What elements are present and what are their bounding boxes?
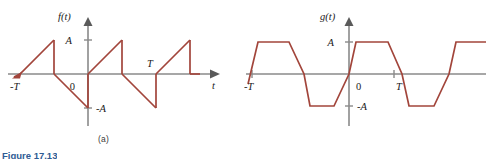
y-axis-label-b: g(t) xyxy=(320,11,336,23)
waveform-start-arrow-a xyxy=(12,72,22,79)
figure-caption: Figure 17.13 xyxy=(2,150,57,159)
y-axis-arrow-b xyxy=(345,17,354,26)
ytick-label-negA-a: -A xyxy=(96,103,106,114)
panel-sublabel-a: (a) xyxy=(98,134,109,144)
ytick-label-A-a: A xyxy=(65,35,73,46)
y-axis-label-a: f(t) xyxy=(58,11,71,23)
xtick-label-T-a: T xyxy=(147,58,154,69)
xtick-label-negT-b: -T xyxy=(244,81,254,92)
xtick-label-negT-a: -T xyxy=(10,81,20,92)
x-axis-label-a: t xyxy=(212,80,216,91)
y-axis-arrow-a xyxy=(84,17,93,26)
figure-container: f(t) A -A -T 0 T t (a) xyxy=(0,0,488,159)
x-axis-arrow-a xyxy=(210,70,220,79)
chart-panel-b: g(t) A -A -T 0 T (b) xyxy=(244,0,488,159)
xtick-label-T-b: T xyxy=(396,81,403,92)
ytick-label-A-b: A xyxy=(327,37,335,48)
origin-label-a: 0 xyxy=(70,81,75,92)
chart-panel-a: f(t) A -A -T 0 T t (a) xyxy=(0,0,244,159)
trapezoid-chart-svg: g(t) A -A -T 0 T xyxy=(244,0,488,133)
ytick-label-negA-b: -A xyxy=(357,101,367,112)
sawtooth-chart-svg: f(t) A -A -T 0 T t xyxy=(0,0,244,133)
origin-label-b: 0 xyxy=(356,81,361,92)
